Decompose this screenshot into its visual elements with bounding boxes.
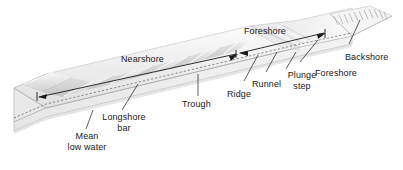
label-ridge: Ridge [227,89,251,100]
label-mean-low-water-line1: Mean [56,131,118,142]
label-foreshore-extent: Foreshore [244,26,286,37]
label-mean-low-water-line2: low water [56,142,118,153]
beach-profile-diagram: Nearshore Foreshore Backshore Foreshore … [0,0,403,170]
label-backshore: Backshore [345,52,388,63]
label-trough: Trough [182,99,211,110]
label-plunge-step: Plunge step [282,70,322,91]
label-plunge-step-line1: Plunge [282,70,322,81]
label-runnel: Runnel [252,79,281,90]
label-nearshore: Nearshore [121,54,164,65]
label-longshore-bar-line1: Longshore [94,112,154,123]
label-mean-low-water: Mean low water [56,131,118,152]
label-longshore-bar: Longshore bar [94,112,154,133]
label-plunge-step-line2: step [282,81,322,92]
